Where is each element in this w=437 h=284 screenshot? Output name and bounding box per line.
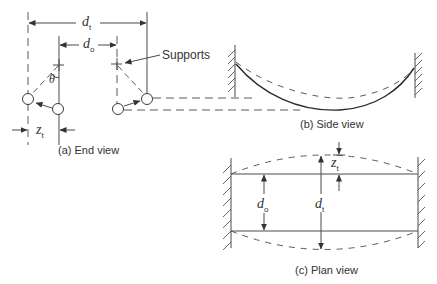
end-dt-label: dt xyxy=(82,15,91,32)
caption-plan-view: (c) Plan view xyxy=(295,264,358,276)
caption-end-view: (a) End view xyxy=(58,144,119,156)
left-swing-arrow xyxy=(36,103,52,108)
side-left-wall-hatch xyxy=(228,50,235,92)
theta-label: θ xyxy=(49,73,55,85)
supports-label: Supports xyxy=(162,48,210,62)
end-zt-label: zt xyxy=(36,123,44,140)
end-view xyxy=(12,12,160,145)
conductor-right-displaced xyxy=(142,94,153,105)
diagram-canvas xyxy=(0,0,437,284)
end-do-label: do xyxy=(83,37,94,54)
side-view xyxy=(228,45,422,110)
plan-zt-label: zt xyxy=(331,156,339,173)
plan-dt-label: dt xyxy=(315,197,324,214)
side-right-wall-hatch xyxy=(415,53,422,95)
plan-left-wall-hatch xyxy=(223,165,231,250)
conductor-right-rest xyxy=(113,104,124,115)
conductor-left-displaced xyxy=(23,94,34,105)
conductor-left-rest xyxy=(53,104,64,115)
plan-view xyxy=(223,142,425,250)
plan-do-label: do xyxy=(257,197,268,214)
plan-right-wall-hatch xyxy=(418,159,425,248)
supports-leader-arrow xyxy=(125,55,160,63)
right-swing-line xyxy=(118,66,143,93)
side-displaced-curve xyxy=(236,62,414,98)
plan-top-displaced xyxy=(231,155,418,174)
right-swing-arrow xyxy=(124,101,140,106)
side-sag-curve xyxy=(236,64,414,110)
caption-side-view: (b) Side view xyxy=(300,118,364,130)
plan-bottom-displaced xyxy=(231,231,418,250)
